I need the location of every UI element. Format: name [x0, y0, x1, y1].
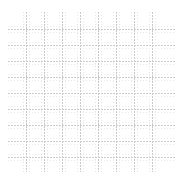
grid-minor-vertical-line [47, 12, 48, 172]
grid-minor-horizontal-line [8, 90, 175, 91]
grid-horizontal-line-6 [8, 125, 175, 126]
grid-area [0, 0, 183, 178]
grid-minor-vertical-line [23, 12, 24, 172]
grid-minor-vertical-line [101, 12, 102, 172]
grid-horizontal-line-4 [8, 93, 175, 94]
grid-minor-vertical-line [77, 12, 78, 172]
grid-minor-horizontal-line [8, 128, 175, 129]
grid-vertical-line-3 [80, 12, 81, 172]
grid-minor-vertical-line [65, 12, 66, 172]
grid-minor-vertical-line [131, 12, 132, 172]
grid-minor-horizontal-line [8, 26, 175, 27]
grid-minor-horizontal-line [8, 42, 175, 43]
grid-minor-horizontal-line [8, 58, 175, 59]
grid-minor-vertical-line [113, 12, 114, 172]
grid-minor-vertical-line [83, 12, 84, 172]
grid-horizontal-line-0 [8, 29, 175, 30]
grid-minor-horizontal-line [8, 32, 175, 33]
grid-horizontal-line-2 [8, 61, 175, 62]
grid-horizontal-line-8 [8, 157, 175, 158]
grid-minor-vertical-line [41, 12, 42, 172]
grid-vertical-line-4 [98, 12, 99, 172]
grid-minor-horizontal-line [8, 80, 175, 81]
grid-minor-horizontal-line [8, 154, 175, 155]
grid-horizontal-line-1 [8, 45, 175, 46]
grid-minor-vertical-line [29, 12, 30, 172]
grid-minor-horizontal-line [8, 122, 175, 123]
grid-minor-vertical-line [119, 12, 120, 172]
grid-canvas [0, 0, 183, 178]
grid-minor-horizontal-line [8, 112, 175, 113]
grid-minor-vertical-line [59, 12, 60, 172]
grid-vertical-line-0 [26, 12, 27, 172]
grid-horizontal-line-5 [8, 109, 175, 110]
grid-vertical-line-5 [116, 12, 117, 172]
grid-horizontal-line-3 [8, 77, 175, 78]
grid-vertical-line-1 [44, 12, 45, 172]
grid-minor-horizontal-line [8, 64, 175, 65]
grid-minor-horizontal-line [8, 138, 175, 139]
grid-minor-horizontal-line [8, 74, 175, 75]
grid-horizontal-line-7 [8, 141, 175, 142]
grid-minor-horizontal-line [8, 144, 175, 145]
grid-minor-horizontal-line [8, 106, 175, 107]
grid-minor-vertical-line [155, 12, 156, 172]
grid-vertical-line-7 [152, 12, 153, 172]
grid-vertical-line-2 [62, 12, 63, 172]
grid-vertical-line-6 [134, 12, 135, 172]
grid-minor-vertical-line [137, 12, 138, 172]
grid-minor-horizontal-line [8, 48, 175, 49]
grid-minor-vertical-line [149, 12, 150, 172]
grid-minor-horizontal-line [8, 96, 175, 97]
grid-minor-horizontal-line [8, 160, 175, 161]
grid-minor-vertical-line [95, 12, 96, 172]
